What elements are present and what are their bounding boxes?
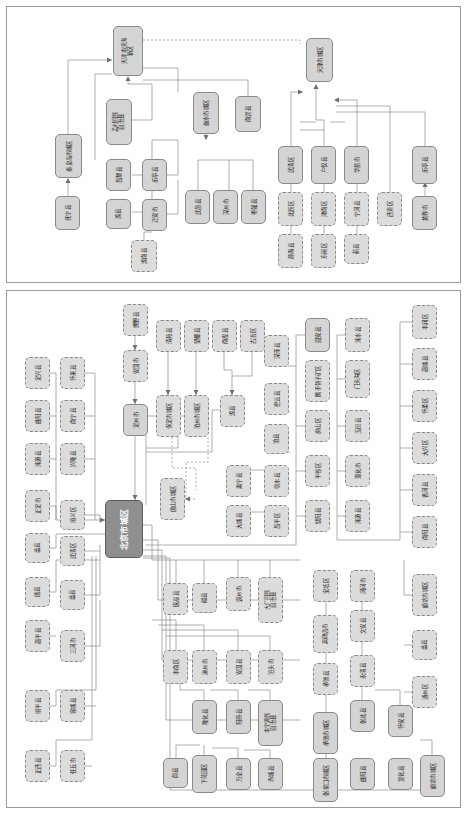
node-t2[interactable]: 天津市城区 xyxy=(306,38,333,82)
node-b69[interactable]: 丰南区 xyxy=(163,650,188,684)
node-t12[interactable]: 南宫县 xyxy=(235,96,261,132)
node-b17[interactable]: 唐县 xyxy=(25,577,50,607)
node-b41[interactable]: 饶阳县 xyxy=(305,500,330,532)
node-t19[interactable]: 户仅县 xyxy=(311,146,336,184)
node-t11[interactable]: 衡水市城区 xyxy=(193,92,219,134)
node-b66[interactable]: 献县 xyxy=(192,583,217,613)
node-t6[interactable]: 昌黎县 xyxy=(106,159,131,191)
node-b67[interactable]: 霸州市 xyxy=(226,577,251,611)
node-b45[interactable]: 遵化市 xyxy=(345,455,370,487)
node-b31[interactable]: 密云县 xyxy=(264,383,289,415)
node-b32[interactable]: 沧县 xyxy=(264,424,289,454)
node-b53[interactable]: 廊坊市城区 xyxy=(412,574,437,616)
node-b77[interactable]: 下花园区 xyxy=(192,755,217,793)
node-b6[interactable]: 南皮县 xyxy=(212,320,237,352)
node-b58[interactable]: 承德县 xyxy=(313,663,338,695)
node-b63[interactable]: 张北县 xyxy=(350,700,375,732)
node-b83[interactable]: 廊坊市城区 xyxy=(420,755,445,797)
node-t20[interactable]: 津南区 xyxy=(311,192,336,226)
node-b3[interactable]: 定州市 xyxy=(123,404,148,436)
node-b49[interactable]: 怀柔区 xyxy=(412,390,437,422)
node-b16[interactable]: 蠡县 xyxy=(25,533,50,563)
node-b5[interactable]: 望都县 xyxy=(184,320,209,352)
node-b46[interactable]: 涞源县 xyxy=(345,500,370,532)
node-b29[interactable]: 任丘市 xyxy=(60,750,85,782)
node-b26[interactable]: 蠡县 xyxy=(60,580,85,610)
node-b64[interactable]: 怀安县 xyxy=(388,705,413,737)
node-b13[interactable]: 曲阳县 xyxy=(25,400,50,432)
node-t22[interactable]: 华苗市 xyxy=(344,146,369,184)
node-b9[interactable]: 沧州市城区 xyxy=(184,395,209,437)
node-b34[interactable]: 大城县 xyxy=(226,505,251,537)
node-b82[interactable]: 宣化县 xyxy=(388,758,413,790)
node-b40[interactable]: 平谷区 xyxy=(305,455,330,487)
node-t4[interactable]: 抚宁县 xyxy=(55,196,80,230)
node-b7[interactable]: 古冶区 xyxy=(240,320,265,352)
node-b48[interactable]: 藁城县 xyxy=(412,348,437,380)
node-b1[interactable]: 博野县 xyxy=(123,304,148,336)
node-b51[interactable]: 香河县 xyxy=(412,474,437,506)
node-b80[interactable]: 张家口市城区 xyxy=(313,758,338,802)
node-t7[interactable]: 滦县 xyxy=(106,199,131,229)
node-b81[interactable]: 曲阳县 xyxy=(350,758,375,790)
node-b19[interactable]: 顺平县 xyxy=(25,690,50,722)
node-b55[interactable]: 通州区 xyxy=(412,676,437,708)
node-t8[interactable]: 乐亭县 xyxy=(142,159,167,191)
node-b27[interactable]: 三河市 xyxy=(60,630,85,662)
node-t13[interactable]: 武邑县 xyxy=(185,190,210,224)
node-b4[interactable]: 清苑县 xyxy=(156,320,181,352)
node-b21[interactable]: 怀来县 xyxy=(60,357,85,389)
node-b42[interactable]: 涞水县 xyxy=(345,318,370,352)
node-b61[interactable]: 文安县 xyxy=(350,610,375,642)
node-b0[interactable]: 北京市城区 xyxy=(105,500,143,558)
node-t9[interactable]: 迁安市 xyxy=(142,199,167,231)
node-t15[interactable]: 枣强县 xyxy=(241,190,266,224)
node-b71[interactable]: 安国县 xyxy=(226,650,251,684)
node-t21[interactable]: 东丽区 xyxy=(311,234,336,268)
node-b79[interactable]: 赤城县 xyxy=(258,758,283,790)
node-t18[interactable]: 静海县 xyxy=(278,234,303,268)
node-b28[interactable]: 容城县 xyxy=(60,690,85,722)
node-b30[interactable]: 深泽县 xyxy=(264,335,289,367)
node-t14[interactable]: 深州市 xyxy=(213,190,238,224)
node-t24[interactable]: 蓟县 xyxy=(344,234,369,264)
node-b43[interactable]: 门头沟区 xyxy=(345,360,370,398)
node-t26[interactable]: 乐亭县 xyxy=(412,146,437,184)
node-b2[interactable]: 安国市 xyxy=(123,350,148,382)
node-t10[interactable]: 滦南县 xyxy=(131,240,157,272)
node-t3[interactable]: 秦皇岛市城区 xyxy=(55,134,82,178)
node-b33[interactable]: 肃宁县 xyxy=(226,465,251,497)
node-b65[interactable]: 医巫县 xyxy=(163,583,188,615)
node-b23[interactable]: 兴隆县 xyxy=(60,443,85,475)
node-b18[interactable]: 藁平县 xyxy=(25,620,50,652)
node-b8[interactable]: 保定市城区 xyxy=(156,395,181,437)
node-b25[interactable]: 武清区 xyxy=(60,536,85,566)
node-b54[interactable]: 蠡县 xyxy=(412,630,437,660)
node-b57[interactable]: 高碑店市 xyxy=(313,615,338,653)
node-b76[interactable]: 蔚县 xyxy=(163,758,188,788)
node-b47[interactable]: 丰润区 xyxy=(412,305,437,339)
node-t5[interactable]: 孟村回族自治县 xyxy=(106,99,132,145)
node-b62[interactable]: 永清县 xyxy=(350,655,375,687)
node-b75[interactable]: 丰宁满族自治县 xyxy=(258,700,283,746)
node-b50[interactable]: 大兴区 xyxy=(412,432,437,464)
node-b35[interactable]: 徐水县 xyxy=(264,465,289,497)
node-t17[interactable]: 北辰区 xyxy=(278,192,303,226)
node-b10[interactable]: 滦县 xyxy=(220,395,245,427)
node-b74[interactable]: 阳原县 xyxy=(226,700,251,734)
node-b39[interactable]: 房山区 xyxy=(305,410,330,442)
node-b36[interactable]: 昌平区 xyxy=(264,505,289,537)
node-b22[interactable]: 南宁县 xyxy=(60,400,85,432)
node-b56[interactable]: 宝坻区 xyxy=(313,570,338,602)
node-b44[interactable]: 玉田县 xyxy=(345,410,370,442)
node-b24[interactable]: 顺义区 xyxy=(60,500,85,530)
node-t25[interactable]: 西青区 xyxy=(377,192,402,226)
node-b60[interactable]: 河间市 xyxy=(350,570,375,602)
node-b14[interactable]: 涞源县 xyxy=(25,443,50,475)
node-b73[interactable]: 隆化县 xyxy=(192,700,217,734)
node-b59[interactable]: 承德市城区 xyxy=(313,712,338,754)
node-b68[interactable]: 大厂回族自治县 xyxy=(258,577,283,623)
node-b12[interactable]: 定兴县 xyxy=(25,357,50,389)
node-b37[interactable]: 固安县 xyxy=(305,318,330,352)
node-b20[interactable]: 正西县 xyxy=(25,750,50,782)
